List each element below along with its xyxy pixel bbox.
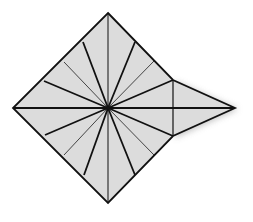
crease-pattern-diagram — [0, 0, 253, 222]
center-point — [106, 106, 110, 110]
